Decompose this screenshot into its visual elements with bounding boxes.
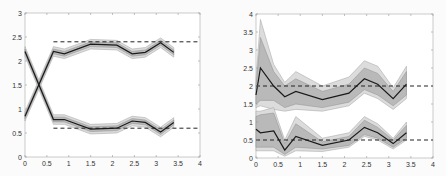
y-tick-label: 2.5 xyxy=(12,34,22,41)
x-tick-label: 1 xyxy=(298,161,302,168)
y-tick-label: 0.5 xyxy=(12,130,22,137)
figure: 00.511.522.533.5400.511.522.53 00.511.52… xyxy=(0,0,446,176)
y-tick-label: 2 xyxy=(18,58,22,65)
y-tick-label: 1 xyxy=(249,119,253,126)
x-tick-label: 3.5 xyxy=(406,161,416,168)
x-tick-label: 0 xyxy=(254,161,258,168)
y-tick-label: 0 xyxy=(18,154,22,161)
y-tick-label: 2.5 xyxy=(243,65,253,72)
x-tick-label: 2.5 xyxy=(130,160,140,167)
x-tick-label: 0 xyxy=(23,160,27,167)
y-tick-label: 4 xyxy=(249,11,253,18)
x-tick-label: 0.5 xyxy=(42,160,52,167)
y-tick-label: 0.5 xyxy=(243,137,253,144)
left-chart: 00.511.522.533.5400.511.522.53 xyxy=(12,10,202,168)
x-tick-label: 0.5 xyxy=(273,161,283,168)
x-tick-label: 1 xyxy=(67,160,71,167)
y-tick-label: 1.5 xyxy=(243,101,253,108)
x-tick-label: 4 xyxy=(431,161,435,168)
x-tick-label: 2 xyxy=(343,161,347,168)
x-tick-label: 2.5 xyxy=(362,161,372,168)
x-tick-label: 1.5 xyxy=(318,161,328,168)
x-tick-label: 3.5 xyxy=(173,160,183,167)
y-tick-label: 2 xyxy=(249,83,253,90)
x-tick-label: 3 xyxy=(154,160,158,167)
y-tick-label: 3 xyxy=(18,10,22,17)
y-tick-label: 3 xyxy=(249,47,253,54)
y-tick-label: 1.5 xyxy=(12,82,22,89)
y-tick-label: 0 xyxy=(249,155,253,162)
y-tick-label: 3.5 xyxy=(243,29,253,36)
x-tick-label: 4 xyxy=(198,160,202,167)
x-tick-label: 2 xyxy=(111,160,115,167)
right-chart: 00.511.522.533.5400.511.522.533.54 xyxy=(243,11,435,169)
y-tick-label: 1 xyxy=(18,106,22,113)
x-tick-label: 3 xyxy=(387,161,391,168)
x-tick-label: 1.5 xyxy=(86,160,96,167)
plot-area xyxy=(25,13,200,157)
